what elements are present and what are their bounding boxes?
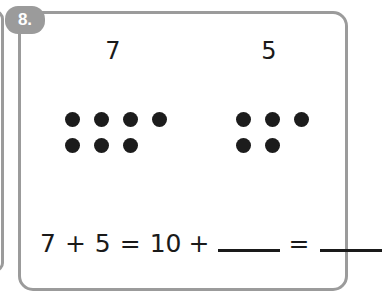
addend-labels-row: 7 5 <box>18 37 348 71</box>
equation-term-second-addend: 5 <box>95 229 111 258</box>
counter-dot-icon <box>236 112 251 127</box>
previous-problem-frame-partial <box>0 10 4 272</box>
counter-dot-icon <box>94 112 109 127</box>
counter-dot-icon <box>236 138 251 153</box>
equation-term-ten: 10 <box>150 229 182 258</box>
counter-dot-icon <box>152 112 167 127</box>
equation-equals-sign-2: = <box>288 229 309 258</box>
counter-dot-icon <box>94 138 109 153</box>
counter-dot-icon <box>123 138 138 153</box>
counter-dot-icon <box>65 112 80 127</box>
answer-blank-second[interactable] <box>320 229 382 252</box>
left-dot-group <box>65 112 167 164</box>
counter-dot-icon <box>294 112 309 127</box>
addend-label-right: 5 <box>249 37 289 65</box>
dot-row <box>236 112 309 127</box>
counter-dot-icon <box>65 138 80 153</box>
counter-dot-icon <box>265 112 280 127</box>
problem-number-badge: 8. <box>5 6 45 34</box>
addend-label-left: 7 <box>93 37 133 65</box>
dot-row <box>65 112 167 127</box>
equation-plus-sign-1: + <box>65 229 86 258</box>
dot-row <box>65 138 167 153</box>
answer-blank-first[interactable] <box>218 229 280 252</box>
dot-row <box>236 138 309 153</box>
counter-dot-icon <box>265 138 280 153</box>
right-dot-group <box>236 112 309 164</box>
counter-dot-icon <box>123 112 138 127</box>
equation-equals-sign-1: = <box>120 229 141 258</box>
equation-plus-sign-2: + <box>189 229 210 258</box>
equation-term-first-addend: 7 <box>40 229 56 258</box>
problem-content: 7 5 7 + 5 = 10 + = <box>18 11 348 264</box>
equation-line: 7 + 5 = 10 + = <box>40 229 382 258</box>
